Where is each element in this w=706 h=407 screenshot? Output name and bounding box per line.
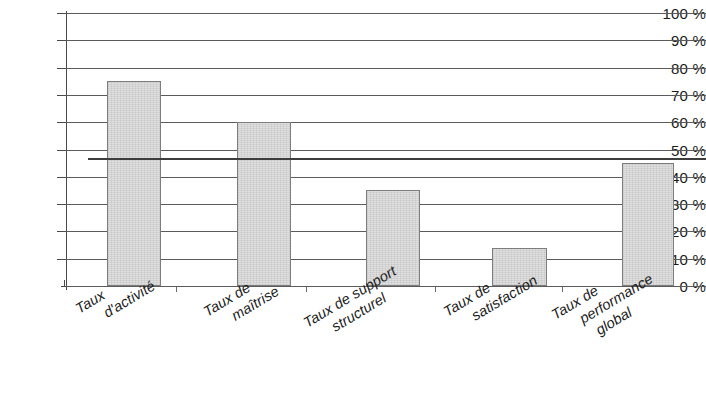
gridline-80 <box>66 68 706 69</box>
gridline-100 <box>66 13 706 14</box>
category-axis-tick <box>306 287 307 292</box>
bar <box>237 122 291 286</box>
y-axis-tick-mark <box>57 68 66 69</box>
category-axis-tick <box>435 287 436 292</box>
gridline-40 <box>66 177 706 178</box>
bar <box>107 81 161 286</box>
gridline-50 <box>66 150 706 151</box>
gridline-70 <box>66 95 706 96</box>
reference-line <box>88 158 706 160</box>
y-axis-tick-mark <box>57 122 66 123</box>
y-axis-tick-mark <box>57 177 66 178</box>
y-axis-tick-mark <box>57 204 66 205</box>
y-axis-tick-mark <box>57 13 66 14</box>
y-axis-tick-mark <box>57 150 66 151</box>
category-axis-tick <box>176 287 177 292</box>
gridline-60 <box>66 122 706 123</box>
bar-chart: 0 %10 %20 %30 %40 %50 %60 %70 %80 %90 %1… <box>0 0 706 407</box>
y-axis-tick-mark <box>57 95 66 96</box>
plot-area <box>66 13 706 286</box>
origin-tick-stub <box>64 280 65 286</box>
category-axis-tick <box>562 287 563 292</box>
gridline-90 <box>66 40 706 41</box>
y-axis-tick-mark <box>57 40 66 41</box>
y-axis-tick-mark <box>57 259 66 260</box>
y-axis-tick-mark <box>57 231 66 232</box>
